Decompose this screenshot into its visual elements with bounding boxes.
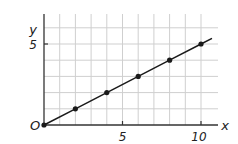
y-axis-label: y [28, 22, 37, 37]
grid-lines [44, 14, 218, 125]
data-point [136, 74, 141, 79]
line-chart: y x O 5 5 10 [0, 0, 238, 144]
y-tick-label-5: 5 [29, 38, 37, 52]
data-point [73, 106, 78, 111]
data-point [167, 58, 172, 63]
data-line [44, 38, 212, 125]
origin-label: O [30, 118, 40, 133]
data-point [198, 41, 203, 46]
x-tick-label-5: 5 [119, 130, 127, 144]
x-axis-label: x [220, 118, 229, 133]
data-point [41, 122, 46, 127]
data-point [104, 90, 109, 95]
x-tick-label-10: 10 [191, 130, 207, 144]
